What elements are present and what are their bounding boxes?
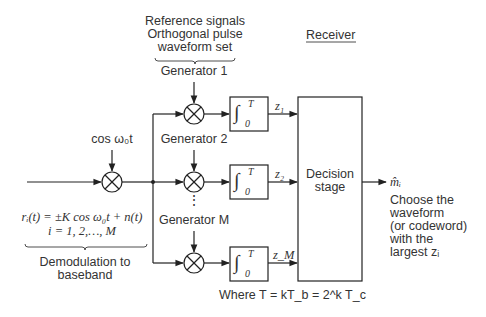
demod-label-1: Demodulation to [20, 255, 150, 269]
integral-upper-m: T [248, 247, 254, 261]
integral-symbol-2: ∫ [234, 169, 239, 191]
integral-lower-1: 0 [245, 117, 250, 131]
generator-1-label: Generator 1 [144, 64, 244, 78]
input-signal-eq: rᵢ(t) = ±K cos ω₀t + n(t) [12, 210, 152, 224]
integral-lower-m: 0 [245, 267, 250, 281]
reference-label-2: Orthogonal pulse [140, 27, 250, 41]
demod-label-2: baseband [20, 268, 150, 282]
output-desc-1: Choose the [390, 193, 454, 207]
output-desc-2: waveform [390, 206, 444, 220]
generator-m-label: Generator M [144, 213, 244, 227]
carrier-label: cos ω₀t [82, 132, 142, 146]
integral-symbol-1: ∫ [234, 101, 239, 123]
zm-label: z_M [273, 248, 295, 262]
input-index-eq: i = 1, 2,…, M [12, 224, 152, 238]
output-desc-3: (or codeword) [390, 219, 467, 233]
demod-brace [25, 244, 147, 250]
generator-2-label: Generator 2 [144, 132, 244, 146]
decision-label-2: stage [298, 180, 362, 194]
integral-symbol-m: ∫ [234, 251, 239, 273]
z1-label: z₁ [275, 99, 284, 113]
integral-lower-2: 0 [245, 185, 250, 199]
decision-label-1: Decision [298, 167, 362, 181]
z2-label: z₂ [275, 167, 284, 181]
output-desc-4: with the [390, 232, 433, 246]
multiplier-1-icon [184, 104, 204, 124]
multiplier-2-icon [184, 172, 204, 192]
output-desc-5: largest zᵢ [390, 245, 439, 259]
reference-label-3: waveform set [140, 40, 250, 54]
ellipsis-dots: ⋮ [184, 193, 204, 207]
integral-upper-1: T [248, 97, 254, 111]
receiver-title: Receiver [306, 28, 355, 42]
junction-dot [151, 180, 155, 184]
integral-upper-2: T [248, 165, 254, 179]
multiplier-m-icon [184, 253, 204, 273]
output-estimate-label: m̂ᵢ [390, 175, 401, 189]
footnote-equation: Where T = kT_b = 2^k T_c [219, 288, 366, 302]
reference-label-1: Reference signals [140, 14, 250, 28]
